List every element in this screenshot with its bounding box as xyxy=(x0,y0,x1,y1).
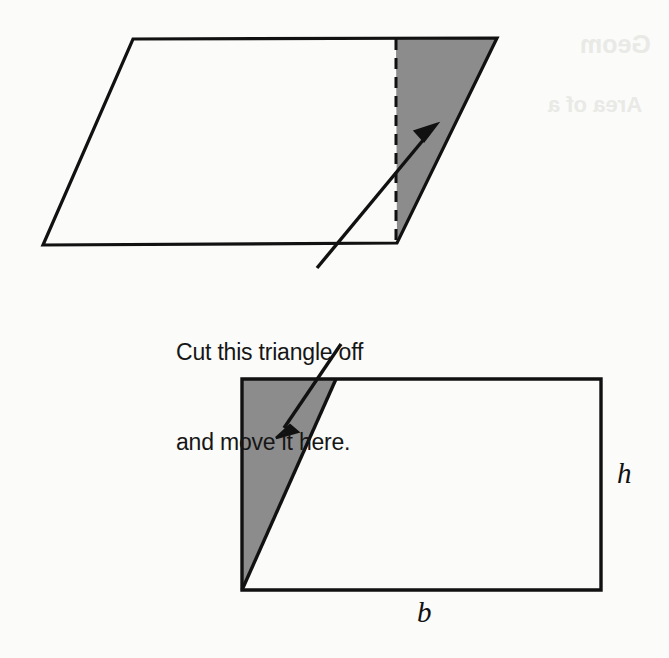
height-label: h xyxy=(617,457,632,490)
instruction-caption: Cut this triangle off and move it here. xyxy=(176,277,363,517)
figure-page: Geom Area of a Cut this triangle off and… xyxy=(0,0,669,658)
caption-line-2: and move it here. xyxy=(176,427,363,457)
caption-line-1: Cut this triangle off xyxy=(176,337,363,367)
base-label: b xyxy=(417,596,432,629)
